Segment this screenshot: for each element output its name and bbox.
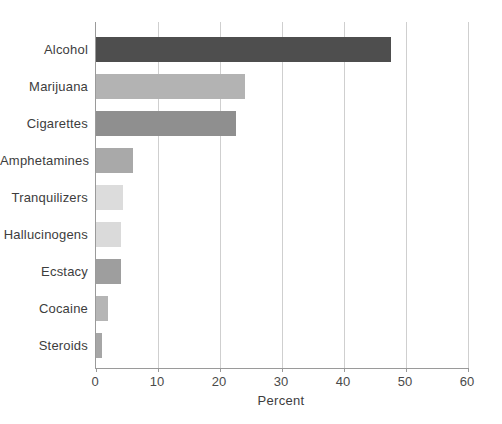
- x-tick-mark-60: [468, 368, 469, 372]
- category-label-cigarettes: Cigarettes: [0, 111, 88, 136]
- x-tick-label-30: 30: [261, 374, 301, 389]
- bar-cigarettes: [96, 111, 236, 136]
- category-label-tranquilizers: Tranquilizers: [0, 185, 88, 210]
- bar-amphetamines: [96, 148, 133, 173]
- bar-alcohol: [96, 37, 391, 62]
- x-tick-label-10: 10: [137, 374, 177, 389]
- x-tick-mark-20: [220, 368, 221, 372]
- category-label-steroids: Steroids: [0, 333, 88, 358]
- bar-cocaine: [96, 296, 108, 321]
- x-tick-mark-0: [96, 368, 97, 372]
- x-tick-mark-40: [344, 368, 345, 372]
- category-label-hallucinogens: Hallucinogens: [0, 222, 88, 247]
- gridline-40: [344, 22, 345, 368]
- x-axis-title: Percent: [95, 393, 467, 408]
- gridline-30: [282, 22, 283, 368]
- bar-ecstacy: [96, 259, 121, 284]
- bar-marijuana: [96, 74, 245, 99]
- plot-area: [95, 22, 468, 369]
- x-tick-mark-30: [282, 368, 283, 372]
- bar-steroids: [96, 333, 102, 358]
- x-tick-label-60: 60: [447, 374, 487, 389]
- category-label-marijuana: Marijuana: [0, 74, 88, 99]
- category-label-cocaine: Cocaine: [0, 296, 88, 321]
- gridline-60: [468, 22, 469, 368]
- category-label-amphetamines: Amphetamines: [0, 148, 88, 173]
- category-label-ecstacy: Ecstacy: [0, 259, 88, 284]
- bar-tranquilizers: [96, 185, 123, 210]
- bar-hallucinogens: [96, 222, 121, 247]
- x-tick-label-0: 0: [75, 374, 115, 389]
- category-label-alcohol: Alcohol: [0, 37, 88, 62]
- gridline-50: [406, 22, 407, 368]
- x-tick-label-40: 40: [323, 374, 363, 389]
- x-tick-label-20: 20: [199, 374, 239, 389]
- x-tick-mark-50: [406, 368, 407, 372]
- bar-chart-figure: AlcoholMarijuanaCigarettesAmphetaminesTr…: [0, 0, 502, 424]
- x-tick-label-50: 50: [385, 374, 425, 389]
- x-tick-mark-10: [158, 368, 159, 372]
